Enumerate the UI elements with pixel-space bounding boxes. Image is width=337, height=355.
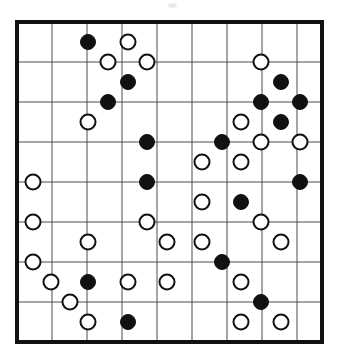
white-stone[interactable] xyxy=(26,255,41,270)
black-stone[interactable] xyxy=(140,175,155,190)
white-stone[interactable] xyxy=(254,55,269,70)
white-stone[interactable] xyxy=(140,215,155,230)
white-stone[interactable] xyxy=(81,235,96,250)
board-canvas xyxy=(0,0,337,355)
white-stone[interactable] xyxy=(274,315,289,330)
white-stone[interactable] xyxy=(63,295,78,310)
white-stone[interactable] xyxy=(140,55,155,70)
black-stone[interactable] xyxy=(81,35,96,50)
white-stone[interactable] xyxy=(121,275,136,290)
black-stone[interactable] xyxy=(215,135,230,150)
black-stone[interactable] xyxy=(274,75,289,90)
white-stone[interactable] xyxy=(274,235,289,250)
black-stone[interactable] xyxy=(234,195,249,210)
white-stone[interactable] xyxy=(81,315,96,330)
white-stone[interactable] xyxy=(81,115,96,130)
black-stone[interactable] xyxy=(121,75,136,90)
white-stone[interactable] xyxy=(254,135,269,150)
white-stone[interactable] xyxy=(26,215,41,230)
white-stone[interactable] xyxy=(195,235,210,250)
white-stone[interactable] xyxy=(293,135,308,150)
white-stone[interactable] xyxy=(101,55,116,70)
black-stone[interactable] xyxy=(254,295,269,310)
white-stone[interactable] xyxy=(195,195,210,210)
black-stone[interactable] xyxy=(81,275,96,290)
black-stone[interactable] xyxy=(140,135,155,150)
black-stone[interactable] xyxy=(215,255,230,270)
white-stone[interactable] xyxy=(160,275,175,290)
black-stone[interactable] xyxy=(293,175,308,190)
white-stone[interactable] xyxy=(160,235,175,250)
black-stone[interactable] xyxy=(274,115,289,130)
white-stone[interactable] xyxy=(121,35,136,50)
white-stone[interactable] xyxy=(44,275,59,290)
white-stone[interactable] xyxy=(234,155,249,170)
white-stone[interactable] xyxy=(234,275,249,290)
black-stone[interactable] xyxy=(101,95,116,110)
white-stone[interactable] xyxy=(26,175,41,190)
white-stone[interactable] xyxy=(234,115,249,130)
black-stone[interactable] xyxy=(293,95,308,110)
go-board-diagram xyxy=(0,0,337,355)
black-stone[interactable] xyxy=(254,95,269,110)
black-stone[interactable] xyxy=(121,315,136,330)
white-stone[interactable] xyxy=(254,215,269,230)
white-stone[interactable] xyxy=(234,315,249,330)
white-stone[interactable] xyxy=(195,155,210,170)
